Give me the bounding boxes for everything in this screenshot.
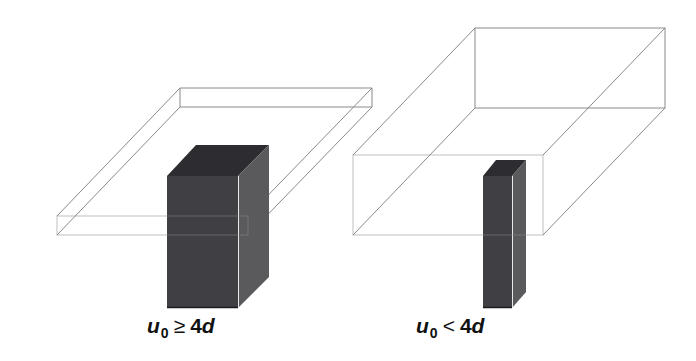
left-caption-operator: ≥ (174, 314, 186, 337)
left-column (167, 145, 269, 308)
right-caption-coefficient: 4 (460, 314, 472, 337)
left-caption: u0≥4d (147, 314, 215, 338)
right-caption: u0<4d (416, 314, 484, 338)
right-caption-variable: u (416, 314, 429, 337)
left-panel (57, 88, 372, 308)
right-caption-symbol: d (472, 314, 485, 337)
left-caption-coefficient: 4 (190, 314, 202, 337)
right-column (483, 160, 526, 308)
left-caption-symbol: d (202, 314, 215, 337)
punching-shear-diagram (0, 0, 696, 361)
right-caption-operator: < (443, 314, 455, 337)
right-panel (353, 28, 665, 308)
right-caption-subscript: 0 (430, 325, 438, 341)
left-caption-variable: u (147, 314, 160, 337)
left-caption-subscript: 0 (161, 325, 169, 341)
